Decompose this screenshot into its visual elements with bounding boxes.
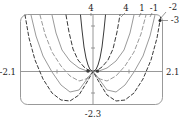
x-axis-left-label: -2.1 (0, 67, 16, 77)
callout-4b: 4 (123, 3, 128, 13)
figure-container: 4 4 1 -1 -2 -3 -2.1 2.1 -2.3 (0, 0, 182, 121)
y-axis-bottom-label: -2.3 (85, 109, 101, 119)
callout-1: 1 (139, 3, 144, 13)
callout-4a: 4 (88, 3, 93, 13)
origin-marker-right (96, 70, 99, 73)
callout-neg3: -3 (171, 15, 179, 25)
callout-neg2: -2 (169, 2, 177, 12)
origin-marker-left (86, 69, 90, 73)
x-axis-right-label: 2.1 (166, 67, 180, 77)
math-plot-svg: 4 4 1 -1 -2 -3 -2.1 2.1 -2.3 (0, 0, 182, 121)
callout-neg1: -1 (150, 3, 158, 13)
